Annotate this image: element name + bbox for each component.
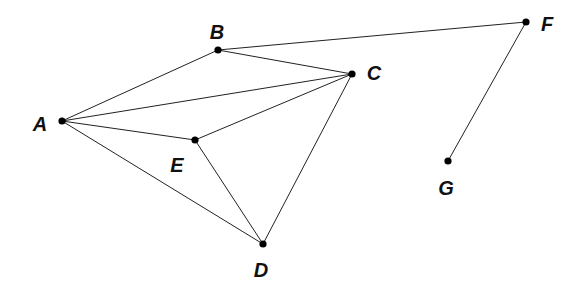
node-c: C [348, 62, 381, 84]
edge-a-d [62, 121, 263, 244]
node-label: E [170, 154, 184, 176]
node-b: B [210, 21, 224, 54]
node-dot [522, 18, 529, 25]
node-g: G [438, 157, 454, 199]
edge-c-d [263, 74, 352, 244]
node-dot [214, 46, 221, 53]
graph-diagram: ABCDEFG [0, 0, 581, 298]
edge-b-f [218, 22, 526, 50]
node-label: C [367, 62, 382, 84]
edge-f-g [448, 22, 526, 161]
edge-a-c [62, 74, 352, 121]
node-label: G [438, 177, 454, 199]
node-e: E [170, 136, 198, 176]
node-dot [444, 157, 451, 164]
node-f: F [522, 13, 553, 35]
node-label: F [541, 13, 554, 35]
edge-a-b [62, 50, 218, 121]
node-label: B [210, 21, 224, 43]
node-d: D [254, 240, 268, 281]
edge-group [62, 22, 526, 244]
node-label: A [32, 113, 47, 135]
edge-e-d [195, 140, 263, 244]
node-dot [348, 70, 355, 77]
node-label: D [254, 259, 268, 281]
node-a: A [32, 113, 66, 135]
edge-c-e [195, 74, 352, 140]
node-dot [259, 240, 266, 247]
node-group: ABCDEFG [32, 13, 554, 281]
edge-a-e [62, 121, 195, 140]
edge-b-c [218, 50, 352, 74]
node-dot [58, 117, 65, 124]
node-dot [191, 136, 198, 143]
